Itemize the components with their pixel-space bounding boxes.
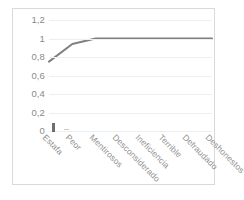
y-axis-tick-label: 1 — [15, 34, 45, 44]
x-axis: EstafaPeorMentirososDesconsideradoInefic… — [49, 133, 216, 186]
y-axis-tick-label: 1,2 — [15, 15, 45, 25]
gridline — [49, 39, 212, 40]
gridline — [49, 94, 212, 95]
origin-dash-mark — [64, 129, 69, 130]
y-axis-tick-label: 0,6 — [15, 71, 45, 81]
origin-tick-mark — [52, 123, 55, 132]
series-line — [49, 39, 212, 62]
chart-frame: 1,210,80,60,40,20 EstafaPeorMentirososDe… — [12, 8, 215, 185]
y-axis: 1,210,80,60,40,20 — [15, 9, 45, 186]
chart-plot-wrapper: 1,210,80,60,40,20 EstafaPeorMentirososDe… — [13, 9, 216, 186]
y-axis-tick-label: 0,8 — [15, 52, 45, 62]
x-axis-tick-label: Peor — [64, 133, 83, 152]
y-axis-tick-label: 0,4 — [15, 89, 45, 99]
y-axis-tick-label: 0,2 — [15, 108, 45, 118]
y-axis-tick-label: 0 — [15, 126, 45, 136]
plot-area — [49, 20, 212, 131]
gridline — [49, 113, 212, 114]
gridline — [49, 20, 212, 21]
gridline — [49, 76, 212, 77]
gridline — [49, 57, 212, 58]
